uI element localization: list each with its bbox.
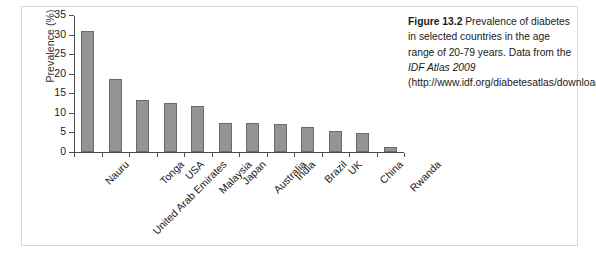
bar [246, 123, 259, 152]
y-axis-tick-label: 35 [54, 8, 66, 20]
y-axis-tick-label: 30 [54, 28, 66, 40]
bar-chart: Prevalence (%) 05101520253035 NauruUnite… [26, 10, 406, 240]
y-axis-tick-label: 5 [60, 125, 66, 137]
x-axis-labels: NauruUnited Arab EmiratesTongaUSAMalaysi… [74, 156, 414, 240]
y-axis-tick: 25 [69, 54, 74, 55]
caption-text-2: (http://www.idf.org/diabetesatlas/downlo… [408, 77, 596, 88]
y-axis-tick: 10 [69, 113, 74, 114]
bar [384, 147, 397, 152]
x-axis-category-label: UK [346, 158, 365, 177]
bar [274, 124, 287, 152]
bar [109, 79, 122, 152]
y-axis-tick-label: 15 [54, 86, 66, 98]
y-axis-tick-label: 20 [54, 67, 66, 79]
x-axis-category-label: Nauru [102, 158, 131, 187]
y-axis-line [74, 16, 75, 153]
bar [356, 133, 369, 152]
caption-source: IDF Atlas 2009 [408, 62, 476, 73]
y-axis-tick: 15 [69, 93, 74, 94]
bar [219, 123, 232, 152]
bar [164, 103, 177, 152]
caption-figure-number: Figure 13.2 [408, 16, 462, 27]
bar [301, 127, 314, 152]
y-axis-tick: 20 [69, 74, 74, 75]
y-axis-tick: 5 [69, 132, 74, 133]
figure-caption: Figure 13.2 Prevalence of diabetes in se… [408, 14, 573, 90]
bar [329, 131, 342, 152]
bar [191, 106, 204, 152]
figure-container: Prevalence (%) 05101520253035 NauruUnite… [0, 0, 596, 260]
x-axis-category-label: Brazil [321, 158, 348, 185]
y-axis-tick-label: 0 [60, 145, 66, 157]
y-axis-tick: 30 [69, 35, 74, 36]
y-axis-tick-label: 10 [54, 106, 66, 118]
bar [136, 100, 149, 152]
bar [81, 31, 94, 152]
y-axis-tick-label: 25 [54, 47, 66, 59]
y-axis-tick: 35 [69, 15, 74, 16]
plot-area: 05101520253035 [74, 16, 404, 153]
x-axis-category-label: China [377, 158, 405, 186]
